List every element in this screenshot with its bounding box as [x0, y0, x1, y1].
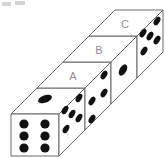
dice-diagram: A B C: [0, 0, 165, 158]
die-1: [11, 88, 85, 156]
die-1-front-pip-2: [40, 119, 49, 128]
die-4-top-label: C: [121, 18, 129, 30]
dice-illustration: A B C: [0, 0, 165, 158]
die-1-front-pip-5: [19, 143, 28, 152]
die-1-front-pip-4: [40, 131, 49, 140]
die-2-top-label: A: [69, 70, 77, 82]
die-1-front-pip-3: [19, 131, 28, 140]
die-3-top-label: B: [95, 44, 102, 56]
die-1-front-pip-6: [40, 143, 49, 152]
die-1-front-face: [11, 114, 59, 156]
die-1-front-pip-1: [19, 119, 28, 128]
